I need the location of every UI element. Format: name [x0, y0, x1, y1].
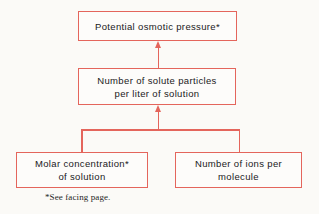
connector-branch-horizontal-bar [81, 129, 240, 131]
arrowhead-up-icon-to-solute-particles [155, 105, 161, 112]
node-molar-concentration: Molar concentration* of solution [16, 152, 148, 188]
flow-diagram: Potential osmotic pressure* Number of so… [0, 0, 319, 214]
connector-solute-particles-to-potential-osmotic-pressure [158, 47, 160, 68]
connector-branch-to-solute-particles [158, 112, 160, 130]
node-molar-concentration-line-1: Molar concentration* [35, 157, 129, 170]
connector-branch-to-ions-per-molecule [239, 129, 241, 153]
connector-branch-to-molar-concentration [81, 129, 83, 153]
node-molar-concentration-line-2: of solution [58, 170, 105, 183]
node-solute-particles: Number of solute particles per liter of … [78, 68, 236, 105]
node-ions-per-molecule: Number of ions per molecule [175, 152, 302, 188]
arrowhead-up-icon-to-potential-osmotic-pressure [155, 41, 161, 48]
node-solute-particles-line-2: per liter of solution [115, 87, 200, 100]
node-potential-osmotic-pressure: Potential osmotic pressure* [78, 11, 237, 41]
node-solute-particles-line-1: Number of solute particles [97, 74, 216, 87]
footnote-text: *See facing page. [45, 192, 110, 202]
node-potential-osmotic-pressure-line-1: Potential osmotic pressure* [95, 20, 220, 33]
node-ions-per-molecule-line-1: Number of ions per [195, 157, 282, 170]
node-ions-per-molecule-line-2: molecule [218, 170, 259, 183]
